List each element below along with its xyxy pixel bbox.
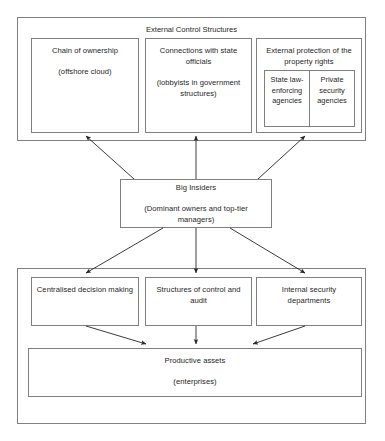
diagram-canvas: External Control Structures Chain of own… (0, 0, 385, 441)
big-insiders-line2: (Dominant owners and top-tier managers) (125, 203, 267, 225)
box-connections-with-state-officials: Connections with state officials (lobbyi… (145, 38, 252, 133)
subbox-state-law-enforcing-agencies: State law-enforcing agencies (265, 71, 310, 126)
chain-of-ownership-line2: (offshore cloud) (58, 66, 111, 77)
connections-with-state-officials-line1: Connections with state officials (151, 39, 246, 67)
subbox-private-security-agencies: Private security agencies (310, 71, 354, 126)
arrow-insiders-to-chain-of-ownership (86, 136, 134, 179)
arrow-insiders-to-internal-security (230, 228, 305, 273)
productive-assets-line1: Productive assets (165, 349, 226, 366)
box-internal-security-departments: Internal security departments (256, 277, 362, 326)
arrow-insiders-to-centralised-decision-making (86, 228, 163, 273)
external-control-structures-label: External Control Structures (18, 24, 365, 35)
box-centralised-decision-making: Centralised decision making (31, 277, 139, 326)
box-productive-assets: Productive assets (enterprises) (28, 348, 362, 397)
external-protection-subboxes: State law-enforcing agencies Private sec… (264, 70, 355, 127)
productive-assets-line2: (enterprises) (173, 376, 216, 387)
structures-of-control-and-audit-label: Structures of control and audit (150, 278, 247, 306)
chain-of-ownership-line1: Chain of ownership (52, 39, 118, 56)
box-chain-of-ownership: Chain of ownership (offshore cloud) (31, 38, 139, 133)
box-structures-of-control-and-audit: Structures of control and audit (145, 277, 252, 326)
connections-with-state-officials-line2: (lobbyists in government structures) (151, 77, 246, 99)
external-protection-line1: External protection of the property righ… (261, 39, 357, 67)
big-insiders-line1: Big Insiders (176, 182, 216, 193)
box-big-insiders: Big Insiders (Dominant owners and top-ti… (120, 179, 272, 228)
centralised-decision-making-label: Centralised decision making (37, 278, 133, 295)
internal-security-departments-label: Internal security departments (261, 278, 357, 306)
arrow-insiders-to-external-protection (258, 136, 305, 179)
